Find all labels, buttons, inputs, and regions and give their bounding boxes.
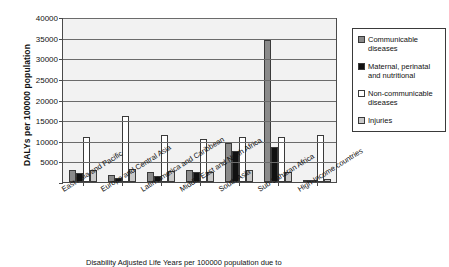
legend-label: Communicable diseases [368, 35, 441, 53]
gridline [63, 39, 336, 40]
y-axis-tick [59, 39, 63, 40]
y-axis-tick [59, 80, 63, 81]
y-axis-tick [59, 18, 63, 19]
legend-label: Non-communicable diseases [368, 89, 441, 107]
gridline [63, 121, 336, 122]
y-axis-tick-label: 30000 [36, 55, 58, 64]
legend-swatch-icon [358, 90, 365, 97]
y-axis-tick-label: 10000 [36, 137, 58, 146]
gridline [63, 18, 336, 19]
x-axis-tick-labels: East Asia and PacificEurope and Central … [62, 186, 337, 248]
y-axis-tick-label: 25000 [36, 75, 58, 84]
legend-swatch-icon [358, 63, 365, 70]
bar[interactable] [264, 40, 271, 182]
legend-label: Injuries [368, 116, 392, 125]
gridline [63, 101, 336, 102]
legend-label: Maternal, perinatal and nutritional [368, 62, 441, 80]
legend-item[interactable]: Injuries [358, 116, 441, 125]
y-axis-tick-label: 20000 [36, 96, 58, 105]
legend-item[interactable]: Communicable diseases [358, 35, 441, 53]
bar[interactable] [324, 179, 331, 182]
y-axis-tick-label: 15000 [36, 117, 58, 126]
legend-item[interactable]: Maternal, perinatal and nutritional [358, 62, 441, 80]
chart-legend: Communicable diseasesMaternal, perinatal… [352, 28, 446, 132]
y-axis-tick [59, 142, 63, 143]
y-axis-tick-label: 40000 [36, 14, 58, 23]
gridline [63, 80, 336, 81]
y-axis-tick-labels: 400003500030000250002000015000100005000 [22, 18, 58, 183]
y-axis-tick [59, 59, 63, 60]
y-axis-tick [59, 162, 63, 163]
legend-swatch-icon [358, 36, 365, 43]
legend-item[interactable]: Non-communicable diseases [358, 89, 441, 107]
gridline [63, 142, 336, 143]
legend-swatch-icon [358, 117, 365, 124]
y-axis-tick-label: 35000 [36, 34, 58, 43]
figure-caption: Disability Adjusted Life Years per 10000… [86, 258, 449, 267]
gridline [63, 59, 336, 60]
y-axis-tick [59, 121, 63, 122]
y-axis-tick [59, 101, 63, 102]
y-axis-tick-label: 5000 [40, 158, 58, 167]
